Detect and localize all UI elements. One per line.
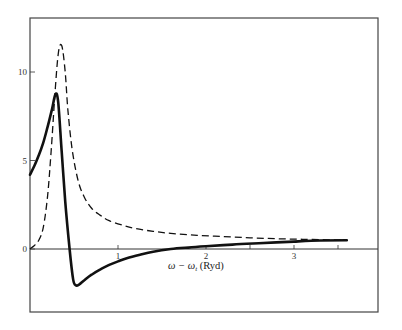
- chart: 0510 123 ω − ωt (Ryd): [0, 0, 402, 330]
- y-tick-label: 5: [23, 156, 28, 166]
- y-tick-label: 0: [23, 244, 28, 254]
- x-tick-label: 3: [292, 251, 297, 261]
- y-axis-ticks: 0510: [18, 67, 35, 254]
- x-axis-label: ω − ωt (Ryd): [168, 260, 224, 273]
- x-axis-label-unit: (Ryd): [197, 260, 224, 272]
- x-axis-label-main: ω − ω: [168, 260, 195, 271]
- solid-curve: [30, 93, 347, 285]
- y-tick-label: 10: [18, 67, 28, 77]
- dashed-curve: [30, 44, 347, 249]
